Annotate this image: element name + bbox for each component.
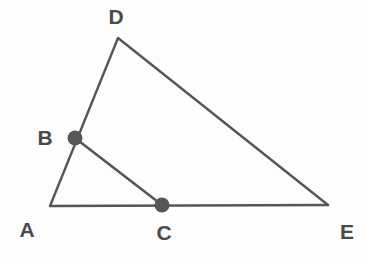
point-label-c: C	[156, 221, 171, 244]
point-label-d: D	[108, 5, 123, 28]
point-marker-c	[155, 198, 170, 213]
segment-ae	[50, 205, 328, 206]
figure-background	[0, 0, 365, 258]
geometry-figure: A B C D E	[0, 0, 365, 258]
point-label-e: E	[340, 220, 354, 243]
point-label-b: B	[37, 126, 52, 149]
figure-canvas: A B C D E	[0, 0, 365, 258]
point-marker-b	[68, 131, 83, 146]
point-label-a: A	[19, 218, 34, 241]
